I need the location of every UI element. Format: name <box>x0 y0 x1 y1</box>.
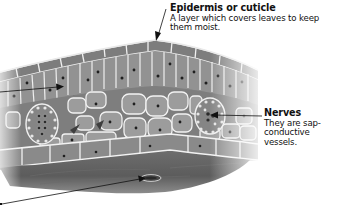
epidermis-label: Epidermis or cuticle A layer which cover… <box>170 3 340 33</box>
epidermis-pointer <box>155 9 166 41</box>
epidermis-description: A layer which covers leaves to keep them… <box>170 14 340 33</box>
arrowhead-icon <box>155 31 161 41</box>
nerves-description: They are sap-conductive vessels. <box>264 119 340 148</box>
leaf-tissue-block <box>0 40 262 200</box>
nerves-label: Nerves They are sap-conductive vessels. <box>264 108 340 148</box>
